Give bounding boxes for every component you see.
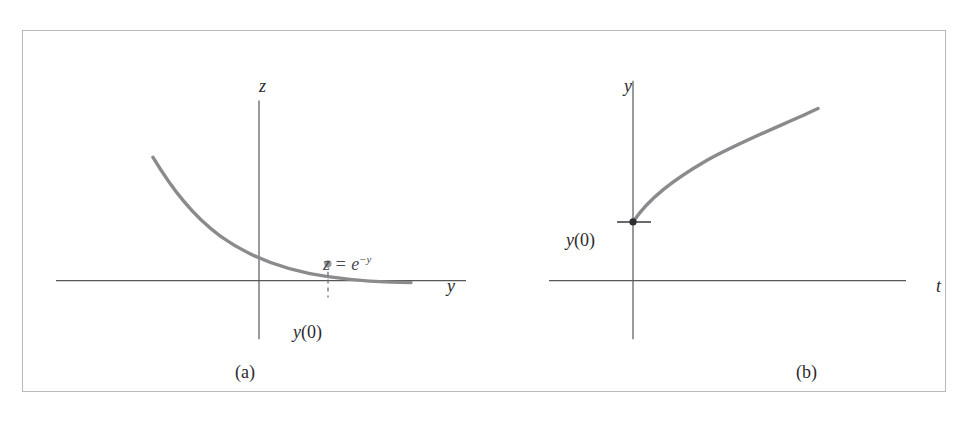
- panel-a-caption: (a): [235, 363, 255, 381]
- panel-b-initial-value-var: y: [566, 230, 574, 250]
- panel-b-plot: [511, 31, 947, 391]
- figure-border-frame: z y z = e−y y(0) (a) y t y(0): [22, 30, 946, 392]
- panel-a: z y z = e−y y(0) (a): [23, 31, 511, 391]
- panel-a-equation-base: z = e: [323, 254, 359, 274]
- panel-b-curve-solution: [633, 109, 818, 222]
- panel-a-initial-value-arg: (0): [301, 322, 322, 342]
- figure-root: z y z = e−y y(0) (a) y t y(0): [0, 0, 971, 423]
- panel-a-initial-value-var: y: [293, 322, 301, 342]
- panel-a-plot: [23, 31, 511, 391]
- panel-b-initial-value-label: y(0): [566, 231, 595, 249]
- panel-b-marker-dot: [629, 218, 636, 225]
- panel-a-initial-value-label: y(0): [293, 323, 322, 341]
- panel-b-initial-value-arg: (0): [574, 230, 595, 250]
- panel-a-equation-exponent: −y: [359, 253, 371, 265]
- panel-a-curve-exponential: [153, 157, 411, 282]
- panel-a-curve-equation-label: z = e−y: [323, 255, 371, 273]
- panel-b-caption: (b): [796, 363, 817, 381]
- panel-b-vertical-axis-label: y: [624, 77, 632, 95]
- panel-b-horizontal-axis-label: t: [936, 277, 941, 295]
- panel-a-horizontal-axis-label: y: [447, 277, 455, 295]
- panel-b: y t y(0) (b): [511, 31, 947, 391]
- panel-a-vertical-axis-label: z: [259, 77, 266, 95]
